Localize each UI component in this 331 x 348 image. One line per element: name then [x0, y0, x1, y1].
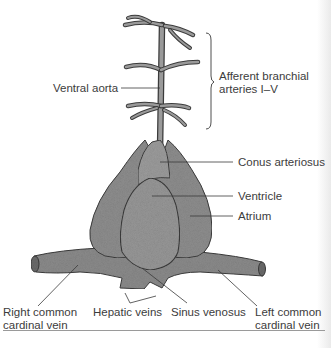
ventral-aorta-vessels	[125, 17, 198, 150]
label-left-ccv-line1: Left common	[255, 306, 321, 319]
label-afferent-line2: arteries I–V	[219, 83, 309, 96]
label-hepatic-veins: Hepatic veins	[93, 306, 162, 319]
label-right-common-cardinal-vein: Right common cardinal vein	[3, 306, 77, 332]
label-left-common-cardinal-vein: Left common cardinal vein	[255, 306, 321, 332]
label-afferent-branchial-arteries: Afferent branchial arteries I–V	[219, 70, 309, 96]
label-ventricle: Ventricle	[238, 190, 282, 203]
label-afferent-line1: Afferent branchial	[219, 70, 309, 83]
label-conus-arteriosus: Conus arteriosus	[238, 156, 325, 169]
label-right-ccv-line1: Right common	[3, 306, 77, 319]
label-atrium: Atrium	[238, 210, 271, 223]
label-ventral-aorta: Ventral aorta	[53, 82, 118, 95]
label-sinus-venosus: Sinus venosus	[171, 306, 246, 319]
bottom-rule	[3, 330, 325, 331]
heart-illustration	[0, 0, 331, 348]
